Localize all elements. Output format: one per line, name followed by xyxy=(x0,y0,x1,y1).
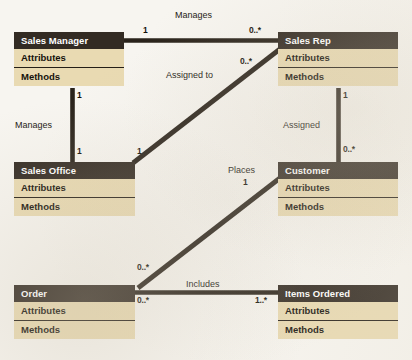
class-methods-order: Methods xyxy=(14,321,135,339)
multiplicity-order-to-items-source: 0..* xyxy=(137,295,149,305)
association-label-manages-rep: Manages xyxy=(175,10,212,20)
association-line-assigned-to xyxy=(133,49,280,163)
multiplicity-order-to-items-target: 1..* xyxy=(255,295,267,305)
association-label-includes: Includes xyxy=(186,279,220,289)
class-attributes-sales-manager: Attributes xyxy=(14,49,124,68)
multiplicity-manager-to-office-source: 1 xyxy=(77,90,82,100)
class-methods-sales-office: Methods xyxy=(14,198,135,216)
multiplicity-office-to-rep-source: 1 xyxy=(137,146,142,156)
class-box-items-ordered[interactable]: Items Ordered Attributes Methods xyxy=(278,285,398,339)
multiplicity-manager-to-rep-source: 1 xyxy=(143,25,148,35)
class-attributes-customer: Attributes xyxy=(278,179,398,198)
class-name-sales-rep: Sales Rep xyxy=(278,32,398,49)
multiplicity-manager-to-rep-target: 0..* xyxy=(249,25,261,35)
class-box-sales-manager[interactable]: Sales Manager Attributes Methods xyxy=(14,32,124,86)
class-box-sales-rep[interactable]: Sales Rep Attributes Methods xyxy=(278,32,398,86)
class-attributes-sales-office: Attributes xyxy=(14,179,135,198)
class-methods-sales-manager: Methods xyxy=(14,68,124,86)
association-label-places: Places xyxy=(228,165,255,175)
class-methods-sales-rep: Methods xyxy=(278,68,398,86)
multiplicity-customer-to-order-target: 0..* xyxy=(137,262,149,272)
class-methods-items-ordered: Methods xyxy=(278,321,398,339)
association-label-manages-office: Manages xyxy=(15,120,52,130)
uml-class-diagram: Sales Manager Attributes Methods Sales R… xyxy=(0,0,412,360)
multiplicity-office-to-rep-target: 0..* xyxy=(240,56,252,66)
multiplicity-customer-to-order-source: 1 xyxy=(243,177,248,187)
class-box-sales-office[interactable]: Sales Office Attributes Methods xyxy=(14,162,135,216)
class-attributes-items-ordered: Attributes xyxy=(278,302,398,321)
class-name-items-ordered: Items Ordered xyxy=(278,285,398,302)
class-methods-customer: Methods xyxy=(278,198,398,216)
association-label-assigned: Assigned xyxy=(283,120,320,130)
class-attributes-order: Attributes xyxy=(14,302,135,321)
class-attributes-sales-rep: Attributes xyxy=(278,49,398,68)
class-name-customer: Customer xyxy=(278,162,398,179)
multiplicity-manager-to-office-target: 1 xyxy=(77,146,82,156)
multiplicity-rep-to-customer-source: 1 xyxy=(343,90,348,100)
class-name-order: Order xyxy=(14,285,135,302)
association-label-assigned-to: Assigned to xyxy=(166,70,213,80)
association-line-places xyxy=(138,178,280,288)
multiplicity-rep-to-customer-target: 0..* xyxy=(343,144,355,154)
class-name-sales-office: Sales Office xyxy=(14,162,135,179)
class-name-sales-manager: Sales Manager xyxy=(14,32,124,49)
class-box-order[interactable]: Order Attributes Methods xyxy=(14,285,135,339)
class-box-customer[interactable]: Customer Attributes Methods xyxy=(278,162,398,216)
